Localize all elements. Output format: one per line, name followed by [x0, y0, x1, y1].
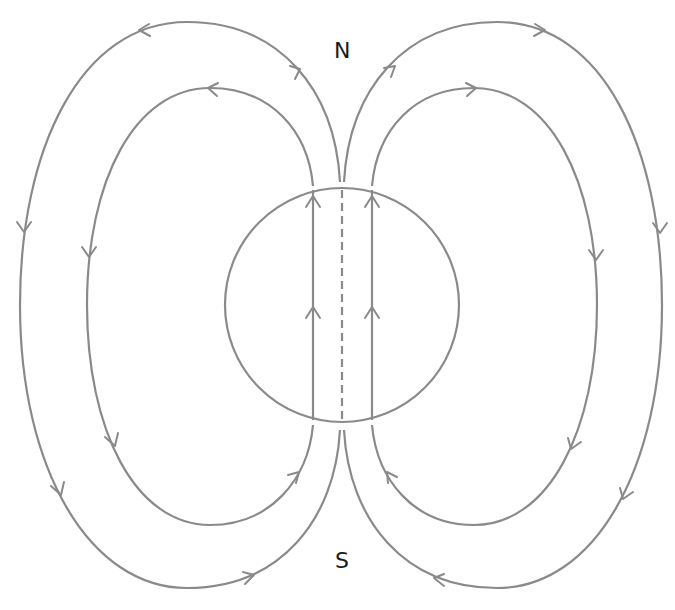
arrow-icon [384, 24, 667, 586]
arrow-icon [17, 24, 300, 584]
north-pole-label: N [334, 38, 350, 63]
south-pole-label: S [335, 548, 349, 573]
field-diagram [0, 0, 675, 610]
field-loop-right-outer [344, 22, 662, 588]
field-loop-left-inner [87, 88, 313, 525]
field-loop-right-inner [372, 88, 597, 525]
field-loop-left-outer [20, 22, 340, 588]
